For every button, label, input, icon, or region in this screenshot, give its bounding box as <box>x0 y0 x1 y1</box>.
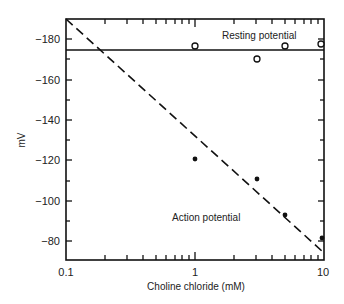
y-tick-label: −180 <box>35 33 60 45</box>
y-tick-label: −120 <box>35 154 60 166</box>
resting-potential-label: Resting potential <box>222 30 297 41</box>
y-tick-label: −140 <box>35 114 60 126</box>
action-potential-label: Action potential <box>172 212 240 223</box>
action-points <box>193 157 325 241</box>
resting-points <box>192 41 324 62</box>
y-tick-label: −80 <box>41 235 60 247</box>
x-axis-title: Choline chloride (mM) <box>147 281 245 292</box>
chart: −180 −160 −140 −120 −100 −80 0.1 1 10 Ch… <box>0 0 344 304</box>
x-ticks <box>105 19 318 260</box>
y-tick-label: −160 <box>35 74 60 86</box>
y-axis-title: mV <box>16 132 27 147</box>
x-tick-label: 10 <box>317 266 329 278</box>
x-tick-label: 0.1 <box>58 266 73 278</box>
x-tick-label: 1 <box>192 266 198 278</box>
plot-frame <box>66 19 324 260</box>
y-ticks <box>66 39 324 241</box>
y-tick-label: −100 <box>35 195 60 207</box>
